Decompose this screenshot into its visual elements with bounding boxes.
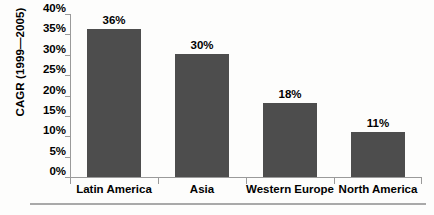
y-axis-tick-label: 0% [22,165,66,177]
bar-chart-figure: CAGR (1999—2005) 40% 35% 30% 25% 20% 15%… [0,0,434,215]
y-axis-tick-label: 20% [22,84,66,96]
x-axis-category-label: North America [332,182,424,196]
bar-value-label: 11% [351,117,405,130]
y-axis-tick-label: 5% [22,145,66,157]
x-axis-category-label: Asia [156,182,248,196]
y-axis-tick-mark [65,34,70,35]
footer-divider [30,203,426,205]
y-axis-tick-mark [65,136,70,137]
y-axis-tick-label: 10% [22,124,66,136]
y-axis-tick-mark [65,96,70,97]
bar[interactable] [87,29,141,177]
x-axis-category-label: Latin America [68,182,160,196]
y-axis-tick-label-group: 40% 35% 30% 25% 20% 15% 10% 5% 0% [22,8,66,184]
y-axis-tick-mark [65,14,70,15]
plot-area: 36% 30% 18% 11% [70,14,422,178]
bar-value-label: 36% [87,14,141,27]
bar-value-label: 30% [175,39,229,52]
y-axis-tick-label: 15% [22,104,66,116]
y-axis-tick-label: 40% [22,2,66,14]
bar[interactable] [263,103,317,177]
y-axis-tick-label: 25% [22,63,66,75]
bar[interactable] [351,132,405,177]
y-axis-tick-label: 35% [22,22,66,34]
y-axis-line [70,14,71,178]
y-axis-tick-mark [65,55,70,56]
x-axis-category-label: Western Europe [244,182,336,196]
x-axis-category-label-group: Latin America Asia Western Europe North … [70,182,422,198]
y-axis-tick-label: 30% [22,43,66,55]
bar[interactable] [175,54,229,177]
y-axis-tick-mark [65,157,70,158]
y-axis-tick-mark [65,116,70,117]
y-axis-tick-mark [65,75,70,76]
bar-value-label: 18% [263,88,317,101]
